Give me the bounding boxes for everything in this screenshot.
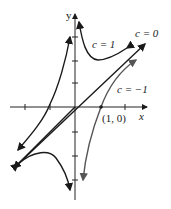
point-label: (1, 0)	[102, 112, 126, 125]
label-c1: c = 1	[92, 38, 115, 50]
x-axis-label: x	[138, 110, 144, 122]
curve-c1-lower	[18, 153, 70, 190]
point-1-0	[99, 105, 103, 109]
y-axis-label: y	[66, 9, 72, 21]
curve-c1-left-tail	[18, 104, 50, 150]
label-cm1: c = −1	[117, 83, 148, 95]
diagram-canvas: y x (1, 0) c = 1 c = 0 c = −1	[0, 0, 171, 209]
curve-cm1-tail	[83, 107, 101, 180]
label-c0: c = 0	[135, 27, 159, 39]
curve-c1-left	[50, 37, 70, 104]
